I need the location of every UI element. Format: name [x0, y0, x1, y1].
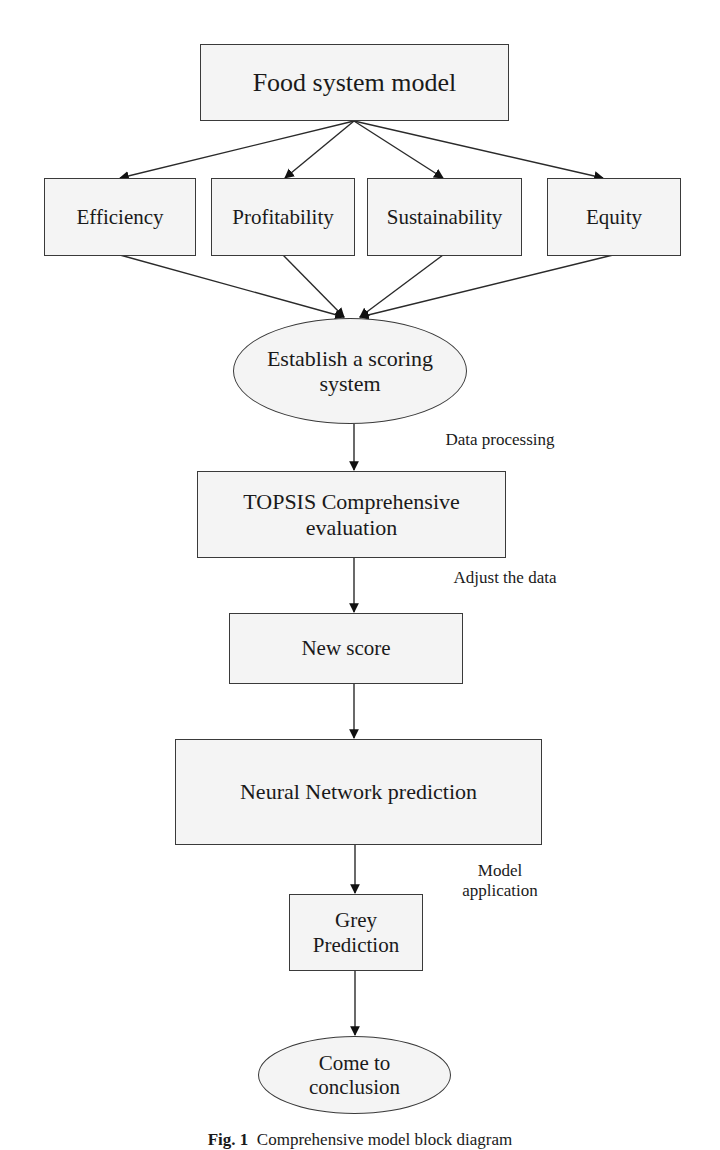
- node-label: Profitability: [232, 205, 334, 229]
- arrow-model-to-sustainability: [354, 121, 443, 178]
- node-profitability: Profitability: [211, 178, 355, 256]
- arrow-equity-to-scoring: [360, 255, 613, 317]
- node-label: Sustainability: [387, 205, 503, 229]
- node-equity: Equity: [547, 178, 681, 256]
- figure-caption: Fig. 1 Comprehensive model block diagram: [0, 1130, 720, 1150]
- node-establish-scoring-system: Establish a scoring system: [233, 318, 467, 424]
- node-label: Efficiency: [76, 205, 163, 229]
- node-label-line2: system: [319, 371, 380, 396]
- node-sustainability: Sustainability: [367, 178, 522, 256]
- node-label-line1: TOPSIS Comprehensive: [243, 489, 460, 514]
- edge-label-line2: application: [440, 881, 560, 901]
- node-neural-network-prediction: Neural Network prediction: [175, 739, 542, 845]
- node-label: Food system model: [253, 68, 457, 98]
- node-label: Neural Network prediction: [240, 779, 477, 804]
- node-come-to-conclusion: Come to conclusion: [258, 1036, 451, 1114]
- node-new-score: New score: [229, 613, 463, 684]
- node-label-line1: Come to: [319, 1051, 391, 1075]
- arrow-sustainability-to-scoring: [360, 255, 443, 317]
- arrow-efficiency-to-scoring: [120, 255, 344, 317]
- node-food-system-model: Food system model: [200, 44, 509, 121]
- edge-label-data-processing: Data processing: [420, 430, 580, 450]
- node-topsis-evaluation: TOPSIS Comprehensive evaluation: [197, 471, 506, 558]
- edge-label-model-application: Model application: [440, 861, 560, 902]
- node-label: New score: [301, 636, 390, 660]
- node-label-line1: Grey: [335, 908, 377, 932]
- edge-label-line1: Model: [440, 861, 560, 881]
- caption-prefix: Fig. 1: [208, 1130, 249, 1149]
- node-label-line2: Prediction: [313, 933, 399, 957]
- arrow-model-to-equity: [354, 121, 603, 178]
- node-efficiency: Efficiency: [44, 178, 196, 256]
- node-grey-prediction: Grey Prediction: [289, 894, 423, 971]
- caption-text: Comprehensive model block diagram: [257, 1130, 512, 1149]
- node-label-line1: Establish a scoring: [267, 346, 433, 371]
- node-label: Equity: [586, 205, 642, 229]
- node-label-line2: conclusion: [309, 1075, 400, 1099]
- arrow-profitability-to-scoring: [283, 255, 344, 317]
- node-label-line2: evaluation: [306, 515, 398, 540]
- edge-label-adjust-data: Adjust the data: [430, 568, 580, 588]
